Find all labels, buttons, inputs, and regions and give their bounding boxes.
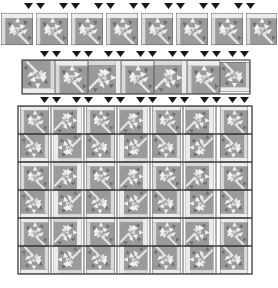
arrow-marks-quilt <box>40 97 249 103</box>
individual-blocks-row-canvas <box>0 2 278 52</box>
arrow-marks-middle <box>40 51 249 57</box>
quilt-diagram: Maple Leaf Quilt Assembly Diagram Line d… <box>0 0 278 288</box>
assembled-block-row-canvas <box>0 48 278 96</box>
arrow-marks-top <box>24 3 255 9</box>
individual-blocks <box>1 13 277 45</box>
quilt-top-canvas <box>0 96 278 288</box>
assembled-row-blocks <box>22 61 250 94</box>
